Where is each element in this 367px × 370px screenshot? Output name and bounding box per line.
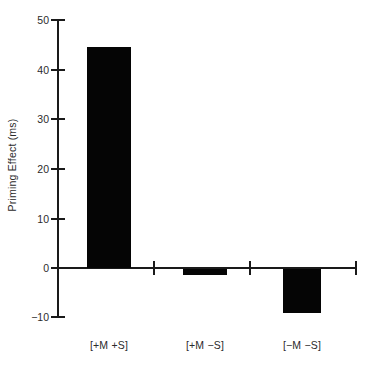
x-tick-label-1: [+M −S] (186, 339, 224, 351)
y-tick-neg10 (51, 316, 65, 318)
y-tick-10 (51, 218, 65, 220)
y-tick-label-20: 20 (5, 163, 49, 175)
x-tick-label-0: [+M +S] (90, 339, 128, 351)
bar-m-plus-s-plus (87, 47, 131, 268)
y-tick-50 (51, 19, 65, 21)
y-tick-label-30: 30 (5, 113, 49, 125)
y-tick-label-0: 0 (5, 262, 49, 274)
x-tick-labels: [+M +S] [+M −S] [−M −S] (0, 339, 367, 357)
y-tick-label-neg10: −10 (5, 311, 49, 323)
x-tick-start (57, 261, 59, 275)
y-tick-30 (51, 118, 65, 120)
y-tick-labels: 50 40 30 20 10 0 −10 (0, 0, 49, 370)
x-tick-label-2: [−M −S] (283, 339, 321, 351)
bar-m-minus-s-minus (283, 269, 321, 313)
chart-figure: Priming Effect (ms) 50 40 30 20 10 0 −10 (0, 0, 367, 370)
y-tick-label-50: 50 (5, 14, 49, 26)
y-tick-20 (51, 168, 65, 170)
y-tick-label-40: 40 (5, 64, 49, 76)
plot-area: 50 40 30 20 10 0 −10 [+M +S] [+M −S] [−M… (0, 0, 367, 370)
x-tick-div-2 (249, 261, 251, 275)
x-tick-div-1 (153, 261, 155, 275)
bar-m-plus-s-minus (183, 269, 227, 275)
y-tick-40 (51, 69, 65, 71)
y-tick-label-10: 10 (5, 213, 49, 225)
x-tick-end (355, 261, 357, 275)
